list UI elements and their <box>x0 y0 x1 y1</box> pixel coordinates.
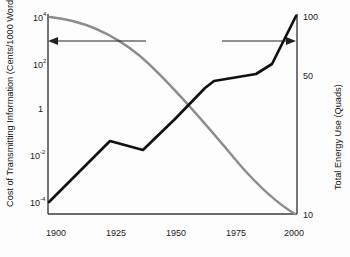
left-tick-3-exponent: -2 <box>40 149 46 155</box>
left-tick-0-mantissa: 10 <box>33 13 43 23</box>
left-tick-4-exponent: -4 <box>40 196 46 202</box>
series-total-energy-use <box>50 17 295 214</box>
series-cost-of-transmitting-information <box>49 16 296 202</box>
left-tick-1-mantissa: 10 <box>33 60 43 70</box>
right-axis-ticks: 100 50 10 <box>303 12 318 220</box>
right-tick-0: 100 <box>303 12 318 22</box>
left-axis-title: Cost of Transmitting Information (Cents/… <box>5 0 15 207</box>
x-tick-1925: 1925 <box>106 228 126 238</box>
left-tick-3-mantissa: 10 <box>30 151 40 161</box>
left-arrow-annotation <box>48 37 146 45</box>
left-axis-ticks: 10 4 10 2 1 10 -2 10 -4 <box>30 11 47 208</box>
x-tick-1950: 1950 <box>166 228 186 238</box>
plot-frame <box>48 14 297 214</box>
right-tick-1: 50 <box>303 71 313 81</box>
x-tick-1975: 1975 <box>226 228 246 238</box>
chart-figure: 10 4 10 2 1 10 -2 10 -4 100 50 10 1900 1… <box>0 0 350 257</box>
x-tick-2000: 2000 <box>284 228 304 238</box>
x-axis-ticks: 1900 1925 1950 1975 2000 <box>46 228 304 238</box>
left-tick-1-exponent: 2 <box>43 58 47 64</box>
chart-svg: 10 4 10 2 1 10 -2 10 -4 100 50 10 1900 1… <box>0 0 350 257</box>
left-tick-0-exponent: 4 <box>43 11 47 17</box>
x-tick-1900: 1900 <box>46 228 66 238</box>
left-tick-4-mantissa: 10 <box>30 198 40 208</box>
right-tick-2: 10 <box>303 210 313 220</box>
left-tick-2-mantissa: 1 <box>38 104 43 114</box>
right-axis-title: Total Energy Use (Quads) <box>333 84 343 190</box>
